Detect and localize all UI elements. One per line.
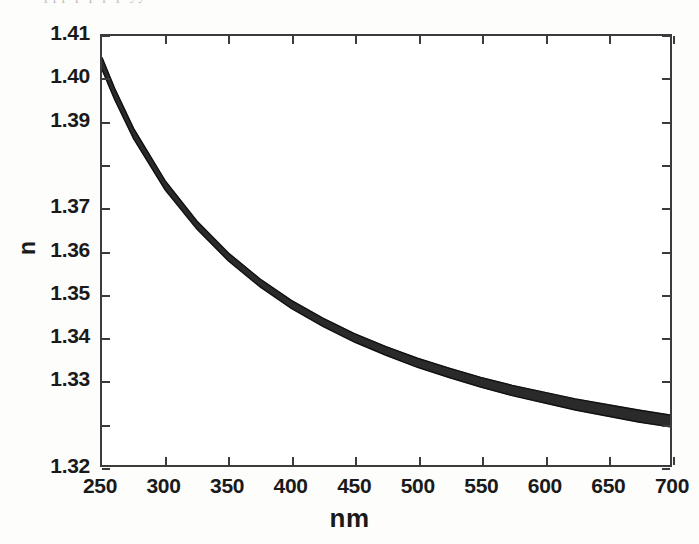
y-tick-right (662, 425, 670, 427)
y-tick-left (102, 252, 110, 254)
x-tick-label: 600 (510, 474, 580, 498)
scan-artifact-text: ppp p p p p yy (44, 0, 464, 9)
figure-page: ppp p p p p yy n 1.411.401.391.371.361.3… (0, 0, 699, 544)
y-tick-right (662, 338, 670, 340)
curve-band-svg (102, 36, 670, 465)
x-tick-top (228, 36, 230, 44)
x-tick-bottom (546, 457, 548, 465)
x-tick-label: 700 (637, 474, 699, 498)
x-tick-top (419, 36, 421, 44)
y-tick-right (662, 122, 670, 124)
y-tick-left (102, 338, 110, 340)
x-tick-top (609, 36, 611, 44)
dispersion-band-path (102, 57, 670, 426)
y-tick-left (102, 468, 110, 470)
x-tick-label: 500 (383, 474, 453, 498)
y-tick-left (102, 35, 110, 37)
y-tick-label: 1.33 (14, 367, 90, 391)
x-tick-label: 550 (446, 474, 516, 498)
y-tick-label: 1.39 (14, 108, 90, 132)
x-tick-top (355, 36, 357, 44)
x-tick-bottom (609, 457, 611, 465)
y-tick-right (662, 35, 670, 37)
y-tick-left (102, 208, 110, 210)
x-tick-top (165, 36, 167, 44)
x-tick-label: 450 (319, 474, 389, 498)
y-tick-right (662, 252, 670, 254)
y-tick-label: 1.40 (14, 64, 90, 88)
x-tick-top (673, 36, 675, 44)
y-tick-label: 1.41 (14, 21, 90, 45)
x-tick-label: 400 (256, 474, 326, 498)
x-tick-top (292, 36, 294, 44)
y-tick-right (662, 295, 670, 297)
x-tick-top (546, 36, 548, 44)
y-tick-right (662, 165, 670, 167)
x-tick-bottom (292, 457, 294, 465)
dispersion-band-lower-line (102, 69, 670, 426)
y-tick-left (102, 425, 110, 427)
y-tick-right (662, 78, 670, 80)
y-tick-left (102, 122, 110, 124)
x-tick-bottom (355, 457, 357, 465)
dispersion-band-upper-line (102, 57, 670, 414)
x-tick-bottom (673, 457, 675, 465)
y-tick-right (662, 381, 670, 383)
x-tick-label: 650 (573, 474, 643, 498)
x-axis-title: nm (0, 503, 699, 534)
x-tick-bottom (228, 457, 230, 465)
y-tick-label: 1.35 (14, 281, 90, 305)
x-tick-bottom (419, 457, 421, 465)
x-tick-bottom (165, 457, 167, 465)
x-tick-label: 250 (65, 474, 135, 498)
x-tick-bottom (482, 457, 484, 465)
y-tick-left (102, 381, 110, 383)
y-tick-left (102, 295, 110, 297)
y-tick-left (102, 78, 110, 80)
y-tick-label: 1.37 (14, 194, 90, 218)
y-tick-right (662, 468, 670, 470)
x-tick-label: 350 (192, 474, 262, 498)
x-tick-label: 300 (129, 474, 199, 498)
y-tick-right (662, 208, 670, 210)
y-tick-label: 1.36 (14, 238, 90, 262)
plot-area (100, 34, 672, 467)
y-tick-left (102, 165, 110, 167)
y-tick-label: 1.34 (14, 324, 90, 348)
x-tick-top (482, 36, 484, 44)
